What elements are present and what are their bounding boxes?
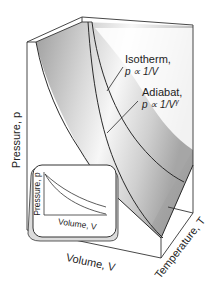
pressure-axis-label: Pressure, p	[10, 112, 22, 168]
adiabat-title: Adiabat,	[142, 86, 182, 98]
volume-axis-label: Volume, V	[65, 251, 117, 273]
inset-card: Pressure, p Volume, V	[28, 165, 118, 241]
adiabat-formula: p ∝ 1/Vγ	[141, 98, 179, 110]
pvt-surface-diagram: Isotherm, p ∝ 1/V Adiabat, p ∝ 1/Vγ Pres…	[0, 0, 211, 286]
adiabat-formula-exponent: γ	[175, 98, 179, 106]
inset-pressure-label: Pressure, p	[32, 172, 42, 216]
adiabat-formula-base: p ∝ 1/V	[141, 99, 176, 110]
isotherm-title: Isotherm,	[125, 53, 171, 65]
isotherm-formula: p ∝ 1/V	[124, 66, 159, 77]
